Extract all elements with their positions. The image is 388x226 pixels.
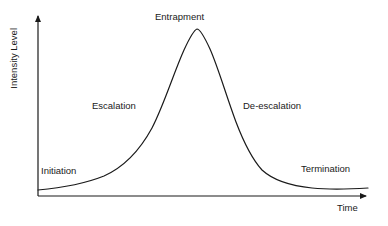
stage-label-termination: Termination — [301, 164, 350, 174]
stage-label-de-escalation: De-escalation — [243, 101, 301, 111]
stage-label-entrapment: Entrapment — [155, 12, 204, 22]
stage-label-initiation: Initiation — [41, 166, 76, 176]
stage-label-escalation: Escalation — [92, 101, 136, 111]
conflict-escalation-curve-figure: Intensity Level Time Initiation Escalati… — [0, 0, 388, 226]
chart-canvas — [0, 0, 388, 226]
x-axis-title: Time — [337, 203, 358, 213]
y-axis-title: Intensity Level — [9, 28, 19, 89]
